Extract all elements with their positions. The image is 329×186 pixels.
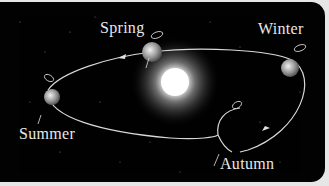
- label-spring: Spring: [100, 19, 144, 37]
- label-autumn: Autumn: [220, 155, 274, 173]
- earth-summer-icon: [44, 89, 60, 105]
- arrow-icon: [118, 54, 126, 59]
- label-summer: Summer: [19, 125, 75, 143]
- arrow-icon: [262, 126, 270, 131]
- earth-winter-icon: [281, 59, 299, 77]
- label-winter: Winter: [258, 20, 304, 38]
- earth-spring-icon: [142, 42, 162, 62]
- earth-autumn-icon: [231, 100, 243, 110]
- orbit-diagram: Spring Winter Summer Autumn: [0, 2, 325, 182]
